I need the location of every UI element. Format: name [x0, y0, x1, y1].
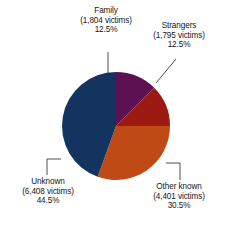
slice-label-strangers-name: Strangers	[133, 21, 225, 31]
leader-line-unknown	[47, 159, 61, 175]
slice-label-family-name: Family	[60, 6, 152, 16]
slice-label-unknown-count: (6,408 victims)	[2, 187, 94, 197]
slice-label-unknown: Unknown (6,408 victims) 44.5%	[2, 177, 94, 206]
leader-line-other	[166, 163, 180, 180]
slice-label-other-known-name: Other known	[132, 182, 226, 192]
slice-label-strangers-count: (1,795 victims)	[133, 31, 225, 41]
slice-label-other-known-percent: 30.5%	[132, 201, 226, 211]
slice-label-unknown-percent: 44.5%	[2, 196, 94, 206]
slice-label-strangers: Strangers (1,795 victims) 12.5%	[133, 21, 225, 50]
pie-chart-figure: Family (1,804 victims) 12.5% Strangers (…	[0, 0, 228, 232]
slice-label-other-known-count: (4,401 victims)	[132, 192, 226, 202]
slice-label-unknown-name: Unknown	[2, 177, 94, 187]
slice-label-strangers-percent: 12.5%	[133, 40, 225, 50]
pie-slices	[62, 72, 170, 180]
slice-label-other-known: Other known (4,401 victims) 30.5%	[132, 182, 226, 211]
leader-line-strangers	[156, 59, 176, 83]
